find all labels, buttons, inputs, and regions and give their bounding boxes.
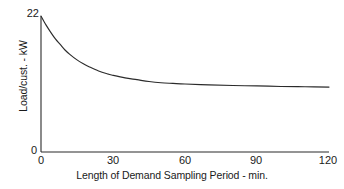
chart-figure: Load/cust. - kW 22 0 0 30 60 90 120 Leng… [0, 0, 344, 189]
data-series-load-per-customer [41, 16, 329, 87]
plot-area [0, 0, 344, 189]
